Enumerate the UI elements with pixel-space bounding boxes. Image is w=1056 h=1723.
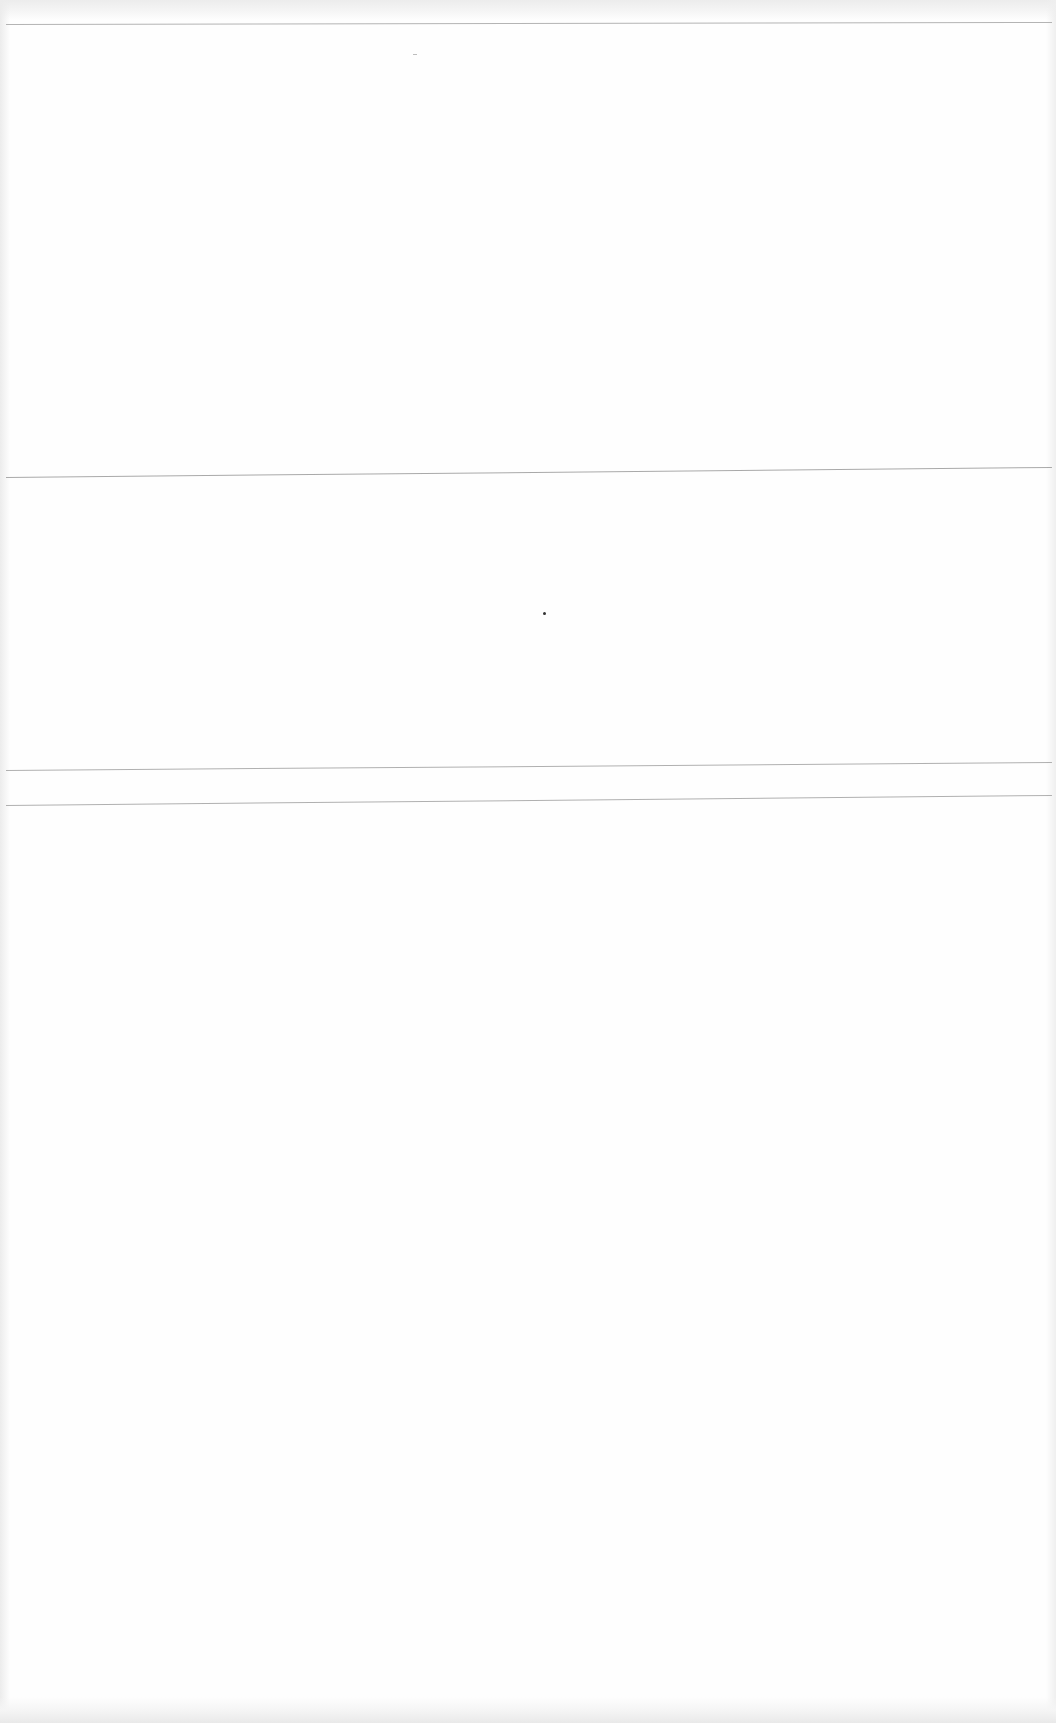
scan-edge-top: [0, 0, 1056, 20]
horizontal-rule-2: [6, 467, 1052, 478]
scan-edge-left: [0, 0, 10, 1723]
scan-edge-right: [1046, 0, 1056, 1723]
scanned-page: [0, 0, 1056, 1723]
faint-mark: [413, 54, 417, 55]
horizontal-rule-1: [6, 22, 1052, 25]
scan-edge-bottom: [0, 1697, 1056, 1723]
dot-mark: [543, 612, 546, 615]
horizontal-rule-3: [6, 762, 1052, 771]
horizontal-rule-4: [6, 795, 1052, 806]
